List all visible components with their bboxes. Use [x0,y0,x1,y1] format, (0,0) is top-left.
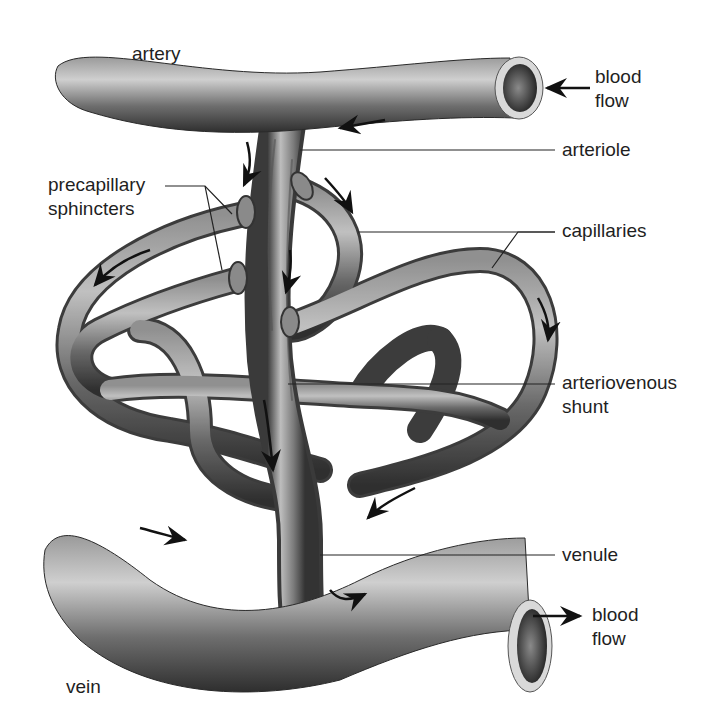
label-av-shunt-line1: arteriovenous [562,372,677,394]
artery-vessel [55,57,543,132]
capillary-bed-diagram: artery blood flow arteriole precapillary… [0,0,727,718]
label-precapillary-line1: precapillary [48,174,145,196]
label-blood-flow-in-line1: blood [595,66,642,88]
label-arteriole: arteriole [562,139,631,161]
label-precapillary-line2: sphincters [48,198,135,220]
label-blood-flow-in-line2: flow [595,90,629,112]
label-blood-flow-out-line1: blood [592,604,639,626]
label-vein: vein [66,676,101,698]
label-av-shunt-line2: shunt [562,396,608,418]
label-artery: artery [132,43,181,65]
label-capillaries: capillaries [562,220,646,242]
label-venule: venule [562,544,618,566]
label-blood-flow-out-line2: flow [592,628,626,650]
